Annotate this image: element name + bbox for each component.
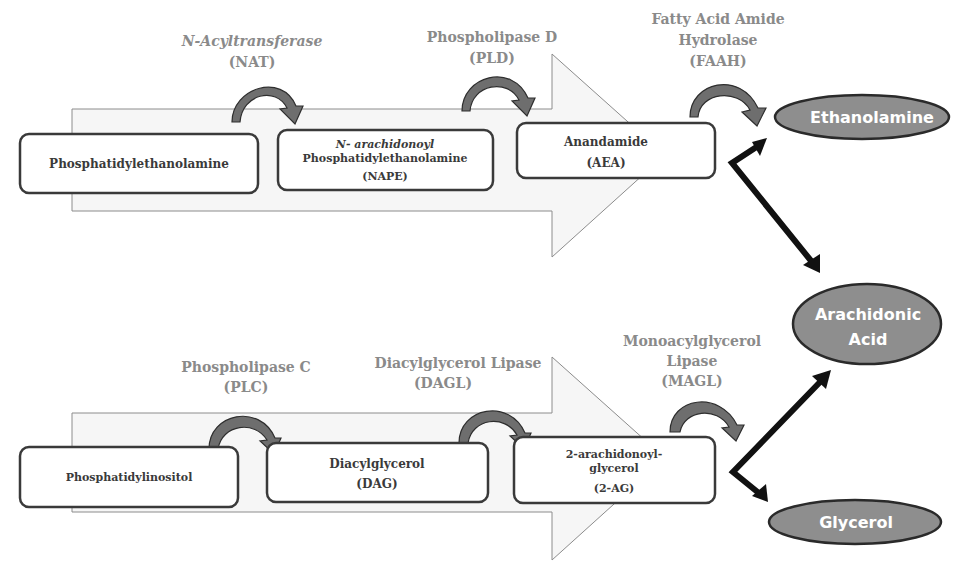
enzyme-faah: Fatty Acid Amide Hydrolase (FAAH) [651,11,784,69]
split-arrow-icon-aea [732,138,820,273]
enzyme-abbrev: (FAAH) [689,53,746,69]
enzyme-abbrev: (PLD) [469,50,515,66]
enzyme-abbrev: (MAGL) [661,373,722,389]
enzyme-label-2: Lipase [667,353,718,369]
node-label: Phosphatidylinositol [66,471,193,484]
enzyme-label-2: Hydrolase [678,32,757,48]
node-label-line2: (AEA) [586,156,625,170]
curved-arrow-icon-faah [690,85,766,126]
product-glycerol: Glycerol [769,500,941,544]
enzyme-label: Diacylglycerol Lipase [375,355,542,371]
node-anandamide: Anandamide (AEA) [517,123,715,178]
product-label: Ethanolamine [810,108,934,127]
node-label-line3: (2-AG) [594,482,635,495]
enzyme-label: Phospholipase C [181,359,311,375]
enzyme-abbrev: (DAGL) [414,375,472,391]
enzyme-nat: N-Acyltransferase (NAT) [181,33,323,70]
svg-text:N-Acyltransferase: N-Acyltransferase [181,33,323,49]
node-label-line1: Anandamide [563,135,648,149]
product-label-line2: Acid [849,330,888,349]
enzyme-label: Monoacylglycerol [623,333,761,349]
enzyme-plc: Phospholipase C (PLC) [181,359,311,395]
node-label-line3: (NAPE) [362,170,408,183]
product-label: Glycerol [819,513,893,532]
enzyme-magl: Monoacylglycerol Lipase (MAGL) [623,333,761,389]
node-label-line2: Phosphatidylethanolamine [303,152,468,165]
node-label-line1: Diacylglycerol [329,457,425,471]
enzyme-abbrev: (NAT) [229,54,276,70]
enzyme-pld: Phospholipase D (PLD) [427,29,558,66]
node-label-line1: N- arachidonoyl [335,138,434,151]
enzyme-label: Fatty Acid Amide [651,11,784,27]
node-label-line1: 2-arachidonoyl- [566,448,663,461]
endocannabinoid-pathway-diagram: N-Acyltransferase (NAT) Phospholipase D … [0,0,968,576]
product-label-line1: Arachidonic [815,305,921,324]
enzyme-label: N-Acyltransferase [181,33,323,49]
split-arrow-icon-2ag [733,370,831,502]
enzyme-abbrev: (PLC) [224,379,269,395]
enzyme-label: Phospholipase D [427,29,558,45]
node-label-line2: glycerol [589,462,638,475]
node-2-arachidonoylglycerol: 2-arachidonoyl- glycerol (2-AG) [514,437,715,503]
node-label-line2: (DAG) [356,477,397,491]
curved-arrow-icon-magl [670,402,744,441]
product-arachidonic-acid: Arachidonic Acid [793,284,941,364]
product-ethanolamine: Ethanolamine [775,95,949,139]
node-nape: N- arachidonoyl Phosphatidylethanolamine… [278,130,493,190]
node-phosphatidylinositol: Phosphatidylinositol [20,447,238,507]
node-label: Phosphatidylethanolamine [49,157,229,171]
node-phosphatidylethanolamine: Phosphatidylethanolamine [20,134,258,193]
node-diacylglycerol: Diacylglycerol (DAG) [267,443,488,502]
enzyme-dagl: Diacylglycerol Lipase (DAGL) [375,355,542,391]
